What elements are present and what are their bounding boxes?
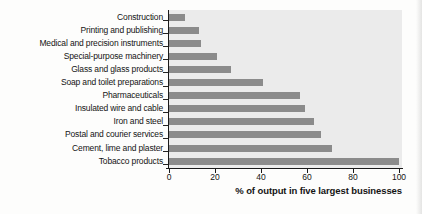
bar-chart: ConstructionPrinting and publishingMedic… (0, 0, 422, 214)
x-tick-label: 60 (294, 172, 320, 182)
x-axis: 020406080100 (0, 0, 422, 214)
x-tick-label: 0 (156, 172, 182, 182)
x-tick-label: 40 (248, 172, 274, 182)
x-axis-title: % of output in five largest businesses (235, 184, 402, 197)
x-tick-label: 80 (340, 172, 366, 182)
page-edge-shade (416, 0, 422, 214)
x-tick-label: 100 (386, 172, 412, 182)
x-tick-label: 20 (202, 172, 228, 182)
